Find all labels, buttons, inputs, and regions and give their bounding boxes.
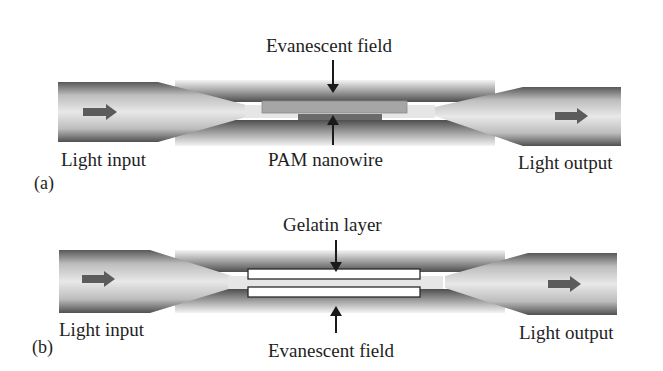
panel-label-a: (a) <box>34 174 54 192</box>
waist-top-shading <box>175 80 495 102</box>
evanescent-field-label-b: Evanescent field <box>268 341 394 360</box>
gelatin-layer-top <box>248 269 420 279</box>
evanescent-field-label-a: Evanescent field <box>266 36 392 55</box>
light-input-label-a: Light input <box>61 150 146 169</box>
panel-a <box>58 60 621 146</box>
pam-nanowire-label: PAM nanowire <box>268 150 383 169</box>
panel-label-b: (b) <box>32 338 53 356</box>
light-input-label-b: Light input <box>59 320 144 339</box>
nanowire-shadow <box>298 114 382 120</box>
gelatin-layer-bottom <box>248 287 420 297</box>
pam-nanowire <box>262 101 407 113</box>
light-output-label-a: Light output <box>518 153 612 172</box>
light-output-label-b: Light output <box>519 323 613 342</box>
gelatin-layer-label: Gelatin layer <box>283 215 382 234</box>
